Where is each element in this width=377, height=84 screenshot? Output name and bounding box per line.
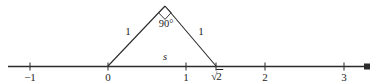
tick-label-1: 1 [183, 72, 189, 83]
axis-arrow-end-marker [364, 64, 370, 70]
tick-label-3: 3 [341, 72, 347, 83]
right-angle-label: 90° [159, 19, 174, 30]
tick-label-minus-1: −1 [24, 72, 36, 83]
triangle-left-leg-label: 1 [125, 26, 131, 37]
triangle-left-leg [108, 6, 165, 66]
tick-label-0: 0 [105, 72, 111, 83]
triangle-right-leg-label: 1 [198, 26, 204, 37]
math-figure: −1 0 1 √2 2 3 1 1 90° s [0, 0, 377, 84]
triangle-right-leg [165, 6, 216, 66]
tick-label-sqrt2: √2 [211, 71, 223, 82]
radical-radicand: 2 [216, 69, 223, 82]
tick-label-2: 2 [262, 72, 268, 83]
triangle-base-label: s [163, 52, 167, 63]
